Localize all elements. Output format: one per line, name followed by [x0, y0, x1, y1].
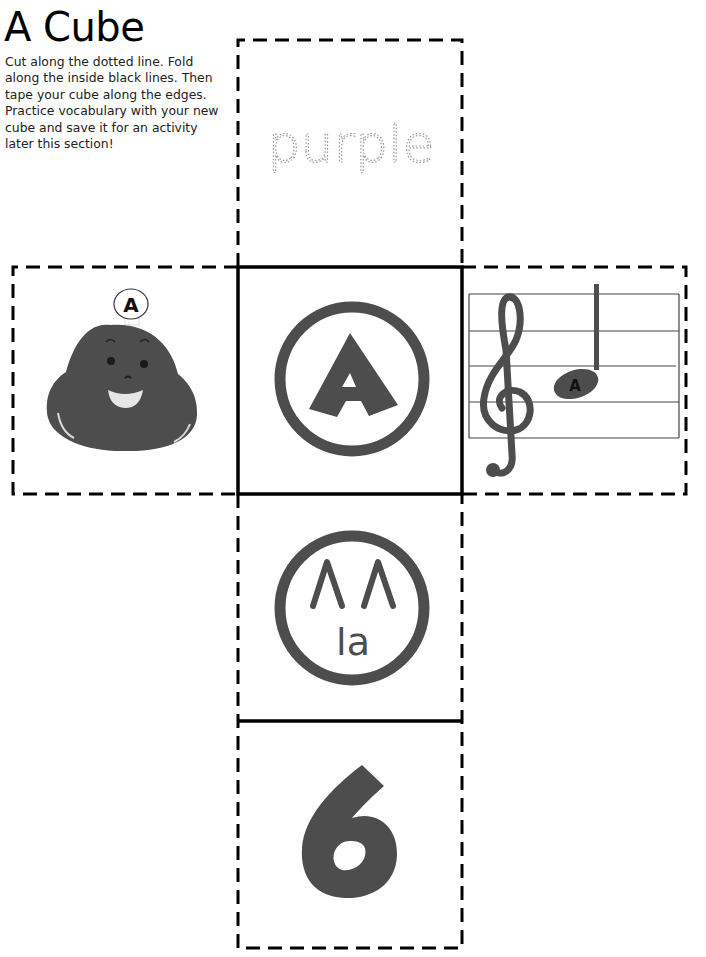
badge-letter: A	[123, 293, 139, 317]
face-left-bean-character: A	[47, 289, 197, 451]
traced-word-purple: purple	[268, 114, 435, 174]
number-six-shape	[302, 765, 397, 898]
note-label: A	[569, 377, 581, 395]
letter-a-shape	[309, 333, 398, 417]
note-stem	[594, 284, 599, 370]
face-top-traced-word: purple	[268, 114, 435, 174]
face-bottom-number-six	[302, 765, 397, 898]
solfege-syllable: la	[336, 620, 370, 664]
hand-sign-icon	[313, 562, 393, 606]
bean-body	[47, 325, 197, 451]
face-right-music-staff: A	[469, 284, 679, 477]
face-center-circled-a	[280, 307, 424, 451]
cube-net: purple A A	[0, 0, 706, 957]
face-solfege-la: la	[280, 536, 424, 680]
